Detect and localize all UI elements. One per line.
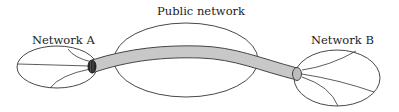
tunnel-cap-right	[293, 68, 302, 81]
network-a-label: Network A	[32, 35, 95, 47]
tunnel	[92, 46, 297, 80]
network-b-links	[302, 51, 374, 106]
public-network-label: Public network	[157, 6, 245, 18]
network-b-ellipse	[294, 50, 380, 106]
tunnel-cap-left	[88, 60, 96, 73]
network-b-label: Network B	[311, 35, 374, 47]
